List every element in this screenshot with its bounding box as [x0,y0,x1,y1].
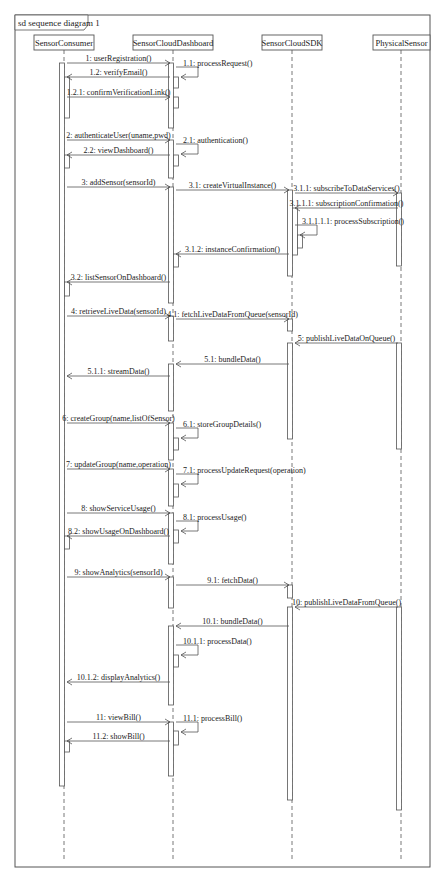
message-label: 3.1.1.1: subscriptionConfirmation() [290,199,404,208]
message-label: 3.1.2: instanceConfirmation() [185,245,280,254]
message-m3_1_1_1: 3.1.1.1: subscriptionConfirmation() [290,199,404,211]
message-label: 3.2: listSensorOnDashboard() [71,273,167,282]
message-m3_1: 3.1: createVirtualInstance() [176,181,289,193]
activation-bar [169,140,174,178]
message-label: 8.2: showUsageOnDashboard() [68,527,169,536]
self-message-line [176,474,198,484]
activation-bar [288,585,293,598]
activation-bar [169,364,174,411]
message-label: 1.2: verifyEmail() [90,68,148,77]
frame-title: sd sequence diagram 1 [18,18,100,28]
message-m3: 3: addSensor(sensorId) [67,178,170,190]
message-label: 5: publishLiveDataOnQueue() [298,334,396,343]
activation-bar [65,741,70,752]
message-label: 8.1: processUsage() [183,513,247,522]
message-label: 11.1: processBill() [183,714,243,723]
message-label: 3.1.1.1.1: processSubscription() [302,217,404,226]
message-m7: 7: updateGroup(name,operation) [66,460,171,472]
message-m8_2: 8.2: showUsageOnDashboard() [67,527,170,539]
activation-bars [60,63,402,810]
message-m5_1: 5.1: bundleData() [176,355,289,367]
message-label: 4: retrieveLiveData(sensorId) [71,307,166,316]
message-label: 7: updateGroup(name,operation) [66,460,171,469]
lifeline-label: PhysicalSensor [376,38,428,48]
activation-bar [298,235,303,248]
activation-bar [293,208,298,255]
activation-bar [174,484,179,497]
message-m2: 2: authenticateUser(uname,pwd) [66,131,171,143]
lifeline-label: SensorCloudDashboard [133,38,214,48]
activation-bar [169,316,174,341]
message-m9_1: 9.1: fetchData() [176,576,289,588]
message-m6: 6: createGroup(name,listOfSensor) [62,414,175,426]
activation-bar [288,319,293,331]
message-label: 11.2: showBill() [92,732,144,741]
message-m10_1_1: 10.1.1: processData() [176,637,252,658]
message-m11_1: 11.1: processBill() [176,714,243,735]
message-m8_1: 8.1: processUsage() [176,513,247,534]
lifeline-label: SensorCloudSDK [262,38,324,48]
message-label: 3: addSensor(sensorId) [82,178,156,187]
message-label: 1: userRegistration() [86,54,152,63]
message-label: 11: viewBill() [96,713,141,722]
activation-bar [174,97,179,108]
message-m2_2: 2.2: viewDashboard() [67,146,170,158]
message-m10: 10: publishLiveDataFromQueue() [292,598,401,610]
message-label: 2.1: authentication() [183,136,248,145]
message-m7_1: 7.1: processUpdateRequest(operation) [176,466,306,487]
activation-bar [169,626,174,705]
message-label: 5.1.1: streamData() [88,367,150,376]
activation-bar [397,343,402,449]
activation-bar [174,254,179,267]
message-label: 3.1: createVirtualInstance() [189,181,277,190]
message-m3_1_1_1_1: 3.1.1.1.1: processSubscription() [295,217,404,238]
message-label: 9.1: fetchData() [207,576,258,585]
message-label: 7.1: processUpdateRequest(operation) [183,466,306,475]
message-m4_1: 4.1: fetchLiveDataFromQueue(sensorId) [167,310,298,322]
message-m1_2: 1.2: verifyEmail() [67,68,170,80]
activation-bar [174,655,179,667]
message-label: 2.2: viewDashboard() [84,146,154,155]
activation-bar [174,530,179,543]
message-m5: 5: publishLiveDataOnQueue() [295,334,398,346]
message-m10_1: 10.1: bundleData() [176,617,289,629]
message-label: 3.1.1: subscribeToDataServices() [293,184,400,193]
message-m3_1_1: 3.1.1: subscribeToDataServices() [293,184,400,196]
message-label: 5.1: bundleData() [204,355,261,364]
self-message-line [176,67,198,77]
message-label: 1.1: processRequest() [183,59,253,68]
message-label: 6.1: storeGroupDetails() [183,420,262,429]
activation-bar [65,536,70,549]
message-m11: 11: viewBill() [67,713,170,725]
message-m2_1: 2.1: authentication() [176,136,248,157]
message-m4: 4: retrieveLiveData(sensorId) [67,307,170,319]
activation-bar [288,607,293,800]
activation-bar [169,187,174,303]
lifeline-label: SensorConsumer [35,38,93,48]
activation-bar [174,77,179,88]
message-m6_1: 6.1: storeGroupDetails() [176,420,262,441]
message-m1_1: 1.1: processRequest() [176,59,253,80]
activation-bar [174,155,179,166]
activation-bar [65,282,70,296]
activation-bar [174,438,179,450]
activation-bar [169,513,174,564]
message-label: 10.1: bundleData() [202,617,263,626]
activation-bar [169,469,174,506]
message-m9: 9: showAnalytics(sensorId) [67,568,170,580]
activation-bar [397,607,402,810]
message-m8: 8: showServiceUsage() [67,504,170,516]
self-message-line [295,225,317,235]
message-label: 1.2.1: confirmVerificationLink() [67,88,171,97]
activation-bar [65,155,70,168]
message-m1_2_1: 1.2.1: confirmVerificationLink() [67,88,171,100]
message-m3_1_2: 3.1.2: instanceConfirmation() [176,245,289,257]
activation-bar [169,423,174,460]
message-label: 9: showAnalytics(sensorId) [74,568,163,577]
message-label: 10.1.1: processData() [183,637,252,646]
message-label: 8: showServiceUsage() [81,504,156,513]
message-label: 4.1: fetchLiveDataFromQueue(sensorId) [167,310,298,319]
message-label: 10: publishLiveDataFromQueue() [292,598,401,607]
activation-bar [169,577,174,608]
activation-bar [169,722,174,776]
